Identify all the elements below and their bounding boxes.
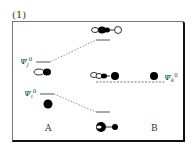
column-label-a: A — [45, 123, 52, 133]
correlation-line-lower — [54, 94, 96, 112]
label-psi-j: Ψj0 — [20, 56, 32, 67]
upper-mo-orbital-icon — [92, 27, 122, 34]
psi-k-orbital-icon — [150, 72, 158, 80]
lower-mo-orbital-icon — [96, 122, 118, 132]
correlation-line-upper — [50, 40, 96, 62]
psi-j-orbital-icon — [34, 69, 51, 76]
label-psi-k: Ψk0 — [164, 72, 178, 83]
label-psi-i: Ψi0 — [24, 88, 36, 99]
column-label-b: B — [151, 123, 158, 133]
psi-i-orbital-icon — [44, 100, 53, 109]
middle-mo-orbital-icon — [91, 72, 120, 80]
